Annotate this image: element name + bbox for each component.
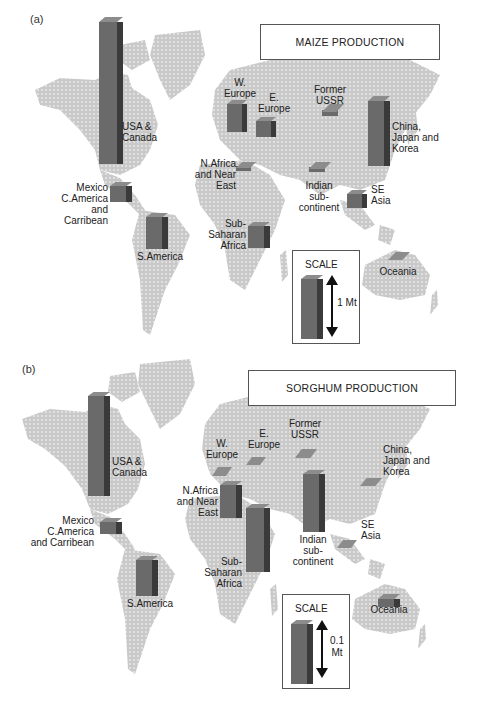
bar-china-japan-korea (368, 96, 390, 166)
bar-usa-canada (99, 17, 123, 164)
panel-maize: (a) MAIZE PRODUCTION USA & Canada W. Eur… (0, 0, 477, 354)
label-sub-saharan-africa: Sub- Saharan Africa (200, 556, 242, 589)
label-indian-subcontinent: Indian sub- continent (292, 534, 334, 567)
bar-indian-subcontinent (303, 470, 325, 532)
chart-title: SORGHUM PRODUCTION (248, 370, 456, 406)
bar-usa-canada (88, 392, 110, 496)
chart-title: MAIZE PRODUCTION (260, 24, 440, 60)
bar-nafrica-near-east (220, 481, 242, 518)
panel-label: (a) (30, 13, 43, 25)
panel-sorghum: (b) SORGHUM PRODUCTION USA & Canada W. E… (0, 354, 477, 708)
label-s-america: S.America (132, 251, 188, 262)
scale-value: 1 Mt (335, 297, 359, 309)
scale-title: SCALE (295, 603, 328, 614)
label-usa-canada: USA & Canada (122, 121, 158, 143)
label-mexico-c-america: Mexico C.America and Carribean (30, 515, 94, 548)
bar-nafrica-near-east (236, 162, 256, 171)
bar-mexico-c-america (100, 518, 122, 534)
scale-legend: SCALE 1 Mt (292, 250, 360, 344)
bar-w-europe (212, 467, 232, 476)
label-former-ussr: Former USSR (285, 418, 325, 440)
label-w-europe: W. Europe (204, 438, 240, 460)
label-nafrica-near-east: N.Africa and Near East (172, 485, 218, 518)
panel-label: (b) (22, 363, 35, 375)
scale-bar (301, 275, 323, 339)
bar-s-america (136, 556, 158, 596)
label-oceania: Oceania (375, 266, 421, 277)
bar-sub-saharan-africa (246, 504, 270, 572)
bar-e-europe (246, 457, 266, 465)
bar-china-japan-korea (360, 478, 382, 486)
scale-title: SCALE (305, 259, 338, 270)
label-e-europe: E. Europe (246, 428, 282, 450)
scale-value: 0.1 Mt (327, 635, 347, 659)
bar-se-asia (347, 190, 367, 208)
label-mexico-c-america: Mexico C.America and Carribean (50, 182, 108, 226)
bar-sub-saharan-africa (248, 222, 270, 248)
label-se-asia: SE Asia (371, 184, 393, 206)
bar-mexico-c-america (110, 182, 132, 202)
bar-former-ussr (295, 449, 317, 458)
scale-bar (291, 620, 313, 684)
scale-legend: SCALE 0.1 Mt (282, 594, 350, 689)
bar-w-europe (227, 100, 247, 132)
label-former-ussr: Former USSR (310, 84, 350, 106)
label-e-europe: E. Europe (258, 92, 290, 114)
label-china-japan-korea: China, Japan and Korea (392, 121, 442, 154)
bar-s-america (146, 213, 168, 249)
label-s-america: S.America (122, 598, 178, 609)
bar-se-asia (337, 540, 357, 548)
label-indian-subcontinent: Indian sub- continent (298, 180, 340, 213)
bar-e-europe (256, 117, 276, 137)
label-nafrica-near-east: N.Africa and Near East (190, 158, 236, 191)
label-sub-saharan-africa: Sub- Saharan Africa (204, 218, 246, 251)
bar-oceania (388, 252, 410, 260)
label-oceania: Oceania (366, 604, 412, 615)
label-usa-canada: USA & Canada (112, 456, 148, 478)
label-w-europe: W. Europe (222, 77, 258, 99)
label-se-asia: SE Asia (361, 519, 383, 541)
bar-indian-subcontinent (309, 162, 331, 172)
label-china-japan-korea: China, Japan and Korea (383, 444, 433, 477)
